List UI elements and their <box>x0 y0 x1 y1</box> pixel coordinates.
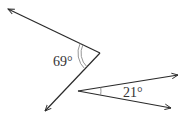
diagram-canvas: 69° 21° <box>0 0 188 127</box>
angle-69: 69° <box>8 9 100 111</box>
angle-diagram: 69° 21° <box>0 0 188 127</box>
angle-21: 21° <box>78 75 178 108</box>
angle-arc-inner <box>81 45 87 67</box>
ray-upper-left <box>8 9 100 53</box>
angle-label-69: 69° <box>53 54 73 69</box>
angle-label-21: 21° <box>123 85 143 100</box>
